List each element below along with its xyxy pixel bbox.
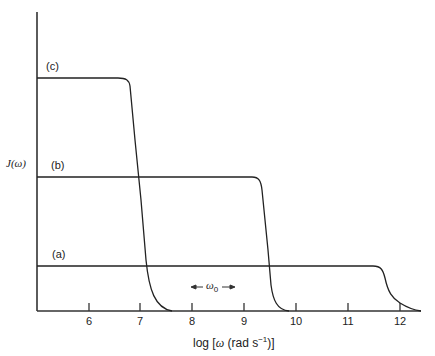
series-label-b: (b): [51, 159, 64, 171]
y-axis-label: J(ω): [6, 157, 26, 169]
omega0-label: ω0: [206, 279, 218, 294]
x-axis-label: log [ω (rad s−1)]: [193, 335, 275, 351]
x-tick-label-9: 9: [241, 315, 247, 327]
y-axis-label-text: J(ω): [6, 157, 26, 169]
curve-b: [37, 177, 289, 311]
x-axis-label-omega: ω: [216, 336, 224, 350]
x-tick-label-10: 10: [290, 315, 302, 327]
omega0-subscript: 0: [214, 285, 218, 294]
x-axis-label-close: )]: [267, 336, 274, 350]
series-label-a: (a): [52, 248, 65, 260]
curve-c: [37, 78, 172, 311]
x-tick-label-12: 12: [394, 315, 406, 327]
omega0-symbol: ω: [206, 279, 214, 291]
x-axis-label-exponent: −1: [258, 335, 267, 344]
x-axis-label-unit: (rad s: [224, 336, 258, 350]
x-tick-label-6: 6: [86, 315, 92, 327]
x-ticks: [89, 303, 400, 311]
curve-a: [37, 266, 421, 311]
x-tick-label-11: 11: [342, 315, 353, 327]
x-tick-label-7: 7: [137, 315, 143, 327]
series-label-c: (c): [46, 60, 59, 72]
x-axis-label-prefix: log [: [193, 336, 216, 350]
x-tick-label-8: 8: [189, 315, 195, 327]
chart-canvas: [0, 0, 435, 356]
